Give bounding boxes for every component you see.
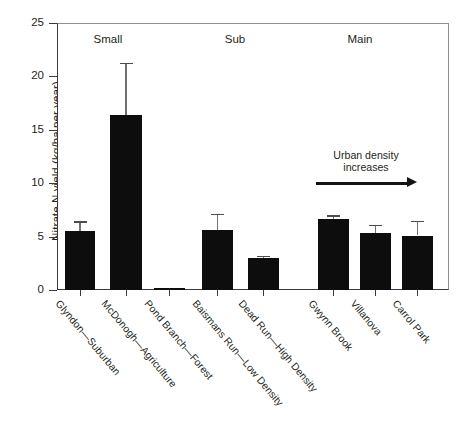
x-tick-mark-4 <box>263 290 264 296</box>
bar-villanova <box>360 233 391 290</box>
error-bar-line-villanova <box>375 225 376 234</box>
bar-carrol-park <box>402 236 433 291</box>
error-bar-line-carrol-park <box>417 222 418 236</box>
annotation-urban-density-line2: increases <box>310 161 422 174</box>
y-tick-label-10: 10 <box>31 177 44 189</box>
error-bar-cap-mcdonogh-agriculture <box>120 63 133 64</box>
error-bar-cap-glyndon-suburban <box>74 221 87 222</box>
y-tick-mark-5 <box>49 237 57 238</box>
x-tick-mark-5 <box>333 290 334 296</box>
x-axis-label-dead-run-high-density: Dead Run—High Density <box>237 298 320 394</box>
x-tick-mark-6 <box>375 290 376 296</box>
right-arrow-icon-shaft <box>316 182 408 185</box>
x-tick-mark-2 <box>169 290 170 296</box>
error-bar-cap-dead-run-high-density <box>257 256 270 257</box>
nitrate-n-yield-bar-chart: Nitrate N yield (kg/ha per year) 0 5 10 … <box>0 0 463 423</box>
y-tick-mark-10 <box>49 183 57 184</box>
error-bar-line-glyndon-suburban <box>79 222 80 232</box>
right-arrow-icon-head <box>407 177 417 187</box>
x-axis-label-villanova: Villanova <box>349 298 384 337</box>
y-tick-label-0: 0 <box>38 284 44 296</box>
bar-gwynn-brook <box>318 219 349 291</box>
group-label-sub: Sub <box>205 33 265 45</box>
bar-glyndon-suburban <box>65 231 95 290</box>
y-tick-mark-15 <box>49 130 57 131</box>
error-bar-cap-carrol-park <box>411 221 424 222</box>
x-axis-label-baismans-run-low-density: Baismans Run—Low Density <box>191 298 286 408</box>
y-tick-label-15: 15 <box>31 124 44 136</box>
error-bar-cap-gwynn-brook <box>327 215 340 216</box>
x-axis-label-mcdonogh-agriculture: McDonogh—Agriculture <box>100 298 179 390</box>
bar-mcdonogh-agriculture <box>110 115 142 290</box>
annotation-urban-density-line1: Urban density <box>310 149 422 162</box>
error-bar-line-mcdonogh-agriculture <box>125 64 126 115</box>
x-tick-mark-1 <box>126 290 127 296</box>
error-bar-cap-baismans-run-low-density <box>211 214 224 215</box>
x-tick-mark-0 <box>80 290 81 296</box>
bar-dead-run-high-density <box>248 258 279 290</box>
x-tick-mark-7 <box>417 290 418 296</box>
x-axis-label-gwynn-brook: Gwynn Brook <box>307 298 356 353</box>
group-label-main: Main <box>330 33 390 45</box>
x-axis-label-carrol-park: Carrol Park <box>391 298 433 345</box>
group-label-small: Small <box>78 33 138 45</box>
y-tick-mark-25 <box>49 23 57 24</box>
error-bar-cap-villanova <box>369 225 382 226</box>
y-tick-label-25: 25 <box>31 17 44 29</box>
error-bar-line-baismans-run-low-density <box>217 214 218 230</box>
bar-baismans-run-low-density <box>202 230 233 290</box>
y-tick-label-20: 20 <box>31 70 44 82</box>
x-tick-mark-3 <box>217 290 218 296</box>
y-tick-label-5: 5 <box>38 231 44 243</box>
y-tick-mark-0 <box>49 290 57 291</box>
y-tick-mark-20 <box>49 76 57 77</box>
